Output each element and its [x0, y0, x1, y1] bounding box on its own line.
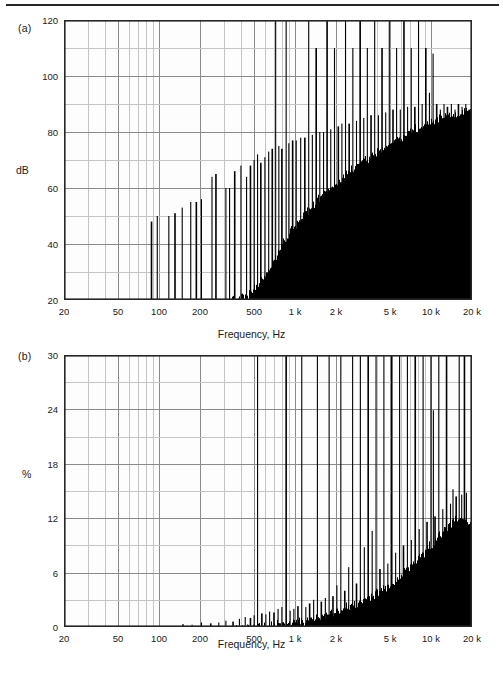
ytick-label: 18 — [18, 458, 58, 469]
panel-b-yaxis-title: % — [22, 468, 31, 480]
xtick-label: 500 — [246, 306, 262, 317]
ytick-label: 24 — [18, 404, 58, 415]
ytick-label: 12 — [18, 513, 58, 524]
xtick-label: 5 k — [384, 306, 397, 317]
panel-a-plot-area — [64, 20, 472, 300]
ytick-label: 40 — [18, 239, 58, 250]
header-rule — [6, 4, 499, 6]
ytick-label: 0 — [18, 622, 58, 633]
panel-b: (b) % 0612182430 20501002005001 k2 k5 k1… — [0, 345, 503, 682]
xtick-label: 20 — [59, 306, 70, 317]
panel-b-xaxis-title: Frequency, Hz — [0, 638, 503, 650]
xtick-label: 1 k — [289, 306, 302, 317]
panel-a-xaxis-title: Frequency, Hz — [0, 328, 503, 340]
panel-a: (a) dB 20406080100120 20501002005001 k2 … — [0, 10, 503, 342]
ytick-label: 60 — [18, 183, 58, 194]
xtick-label: 200 — [192, 306, 208, 317]
xtick-label: 10 k — [422, 306, 440, 317]
xtick-label: 50 — [113, 306, 124, 317]
panel-b-plot-area — [64, 355, 472, 627]
xtick-label: 100 — [151, 306, 167, 317]
ytick-label: 120 — [18, 15, 58, 26]
xtick-label: 20 k — [463, 306, 481, 317]
xtick-label: 2 k — [330, 306, 343, 317]
ytick-label: 100 — [18, 71, 58, 82]
ytick-label: 30 — [18, 350, 58, 361]
panel-a-yaxis-title: dB — [16, 164, 29, 176]
ytick-label: 80 — [18, 127, 58, 138]
ytick-label: 6 — [18, 567, 58, 578]
figure-root: (a) dB 20406080100120 20501002005001 k2 … — [0, 0, 503, 682]
ytick-label: 20 — [18, 295, 58, 306]
